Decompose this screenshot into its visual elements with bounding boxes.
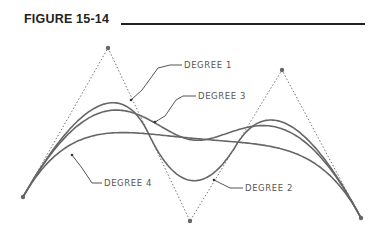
degree-1-polygon (23, 48, 361, 221)
control-point-dot (106, 46, 110, 50)
degree-4-curve (23, 133, 361, 218)
curve-label: DEGREE 1 (184, 60, 232, 70)
leader-line (155, 96, 196, 122)
leader-arrow-icon (71, 154, 74, 157)
control-points (21, 46, 363, 223)
leader-arrow-icon (130, 99, 133, 102)
control-point-dot (21, 195, 25, 199)
curve-labels: DEGREE 1DEGREE 3DEGREE 4DEGREE 2 (104, 60, 293, 193)
control-point-dot (188, 219, 192, 223)
leader-line (131, 65, 182, 100)
bspline-diagram: DEGREE 1DEGREE 3DEGREE 4DEGREE 2 (0, 0, 382, 237)
control-point-dot (280, 68, 284, 72)
curve-label: DEGREE 4 (104, 178, 152, 188)
control-point-dot (359, 216, 363, 220)
curve-label: DEGREE 3 (198, 91, 246, 101)
bspline-curves (23, 103, 361, 218)
curve-label: DEGREE 2 (245, 183, 293, 193)
leader-line (214, 180, 243, 188)
degree-3-curve (23, 110, 361, 218)
leader-arrow-icon (213, 179, 216, 182)
leader-line (72, 155, 102, 183)
leader-arrow-icon (154, 121, 157, 124)
control-polygon-degree-1 (23, 48, 361, 221)
